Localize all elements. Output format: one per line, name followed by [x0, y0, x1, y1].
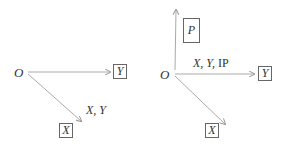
right-arrow-to-x	[175, 76, 225, 124]
right-x-box: X	[205, 123, 219, 138]
left-y-box: Y	[113, 64, 127, 79]
left-arrow-to-x	[28, 74, 81, 121]
right-y-box: Y	[258, 66, 272, 81]
right-origin-label: O	[160, 68, 169, 81]
right-p-box: P	[183, 18, 200, 43]
left-origin-label: O	[14, 66, 23, 79]
left-x-box: X	[59, 123, 73, 138]
arrows-layer	[0, 0, 289, 150]
right-edge-label-ip: IP	[218, 56, 229, 70]
right-arrow-up-p	[175, 10, 176, 70]
right-edge-label: X, Y, IP	[193, 57, 229, 69]
right-edge-label-vars: X, Y,	[193, 56, 215, 70]
left-edge-label: X, Y	[86, 104, 106, 116]
